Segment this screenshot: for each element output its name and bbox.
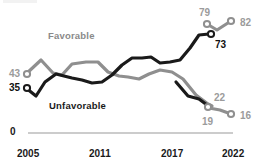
value-label-lower-19: 19 xyxy=(202,117,213,127)
series-label-favorable: Favorable xyxy=(48,31,95,41)
line-chart: Favorable Unfavorable 43 35 79 82 73 22 … xyxy=(0,0,258,161)
value-label-peak-79: 79 xyxy=(199,8,210,18)
value-label-end-16: 16 xyxy=(240,111,251,121)
marker-lower-19 xyxy=(205,104,211,110)
chart-plot-area xyxy=(0,0,258,161)
x-axis-tick-2017: 2017 xyxy=(161,148,183,159)
value-label-start-unfavorable: 35 xyxy=(9,83,20,93)
value-label-lower-22: 22 xyxy=(214,93,225,103)
value-label-end-73: 73 xyxy=(215,40,226,50)
x-axis-tick-2005: 2005 xyxy=(17,148,39,159)
y-axis-zero-label: 0 xyxy=(10,126,16,137)
marker-end-73 xyxy=(208,31,214,37)
marker-end-16 xyxy=(228,111,234,117)
series-label-unfavorable: Unfavorable xyxy=(49,101,106,111)
marker-start-unfavorable xyxy=(24,85,30,91)
marker-end-82 xyxy=(228,18,234,24)
marker-start-favorable xyxy=(24,71,30,77)
marker-peak-79 xyxy=(204,21,210,27)
series-line-unfavorable-lower-tail xyxy=(176,82,207,105)
value-label-end-82: 82 xyxy=(240,18,251,28)
value-label-start-favorable: 43 xyxy=(9,69,20,79)
x-axis-tick-2011: 2011 xyxy=(89,148,111,159)
x-axis-tick-2022: 2022 xyxy=(222,148,244,159)
